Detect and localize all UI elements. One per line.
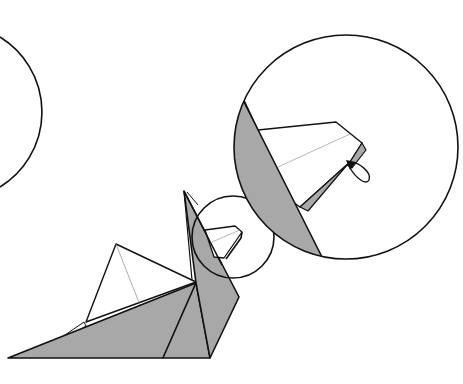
origami-diagram — [0, 0, 463, 384]
previous-step-circle — [0, 37, 42, 187]
bird-model — [8, 191, 242, 358]
magnified-detail-circle — [200, 35, 458, 300]
diagram-canvas — [0, 0, 463, 384]
